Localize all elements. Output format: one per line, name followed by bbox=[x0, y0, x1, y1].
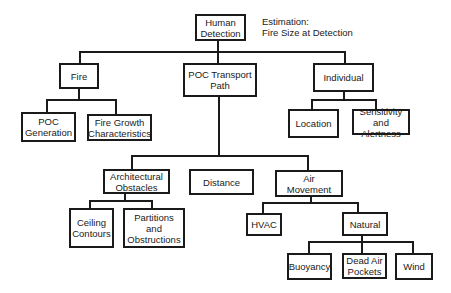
node-hvac: HVAC bbox=[246, 213, 282, 236]
node-label: Individual bbox=[323, 72, 363, 83]
node-human-detection: Human Detection bbox=[195, 14, 246, 41]
connector bbox=[307, 155, 309, 171]
connector bbox=[131, 155, 133, 170]
connector bbox=[218, 96, 220, 157]
node-label: Human Detection bbox=[200, 17, 240, 39]
connector bbox=[262, 202, 359, 204]
connector bbox=[131, 155, 309, 157]
connector bbox=[308, 241, 414, 243]
node-label: Ceiling Contours bbox=[72, 217, 111, 239]
connector bbox=[361, 235, 363, 254]
node-label: Location bbox=[296, 118, 332, 129]
node-poc-transport-path: POC Transport Path bbox=[183, 63, 257, 97]
node-distance: Distance bbox=[189, 169, 254, 195]
node-ceiling-contours: Ceiling Contours bbox=[69, 208, 114, 248]
node-buoyancy: Buoyancy bbox=[287, 253, 332, 280]
node-poc-generation: POC Generation bbox=[21, 112, 76, 142]
node-fire-growth-characteristics: Fire Growth Characteristics bbox=[87, 114, 152, 141]
node-label: Partitions and Obstructions bbox=[127, 212, 180, 245]
node-label: Wind bbox=[403, 261, 425, 272]
node-label: Dead Air Pockets bbox=[346, 255, 382, 277]
node-label: Fire Growth Characteristics bbox=[88, 117, 151, 139]
node-label: Natural bbox=[350, 219, 381, 230]
estimation-annotation: Estimation: Fire Size at Detection bbox=[262, 16, 353, 38]
node-label: POC Transport Path bbox=[188, 69, 251, 91]
node-architectural-obstacles: Architectural Obstacles bbox=[103, 169, 170, 194]
connector bbox=[311, 99, 377, 101]
connector bbox=[89, 200, 153, 202]
node-label: Buoyancy bbox=[289, 261, 331, 272]
node-fire: Fire bbox=[59, 63, 99, 89]
node-label: POC Generation bbox=[25, 116, 72, 138]
node-sensitivity-and-alertness: Sensitivity and Alertness bbox=[352, 109, 410, 135]
connector bbox=[46, 99, 48, 113]
node-location: Location bbox=[288, 109, 339, 138]
node-label: Architectural Obstacles bbox=[110, 171, 163, 193]
node-natural: Natural bbox=[342, 212, 388, 236]
node-partitions-and-obstructions: Partitions and Obstructions bbox=[123, 208, 185, 248]
node-label: HVAC bbox=[251, 219, 277, 230]
connector bbox=[115, 99, 117, 114]
node-wind: Wind bbox=[395, 253, 433, 280]
connector bbox=[79, 51, 346, 53]
connector bbox=[46, 99, 117, 101]
node-air-movement: Air Movement bbox=[275, 170, 343, 197]
node-label: Fire bbox=[71, 71, 87, 82]
node-label: Distance bbox=[203, 177, 240, 188]
node-dead-air-pockets: Dead Air Pockets bbox=[342, 253, 387, 279]
node-individual: Individual bbox=[313, 63, 374, 92]
node-label: Air Movement bbox=[287, 173, 331, 195]
node-label: Sensitivity and Alertness bbox=[354, 106, 408, 139]
